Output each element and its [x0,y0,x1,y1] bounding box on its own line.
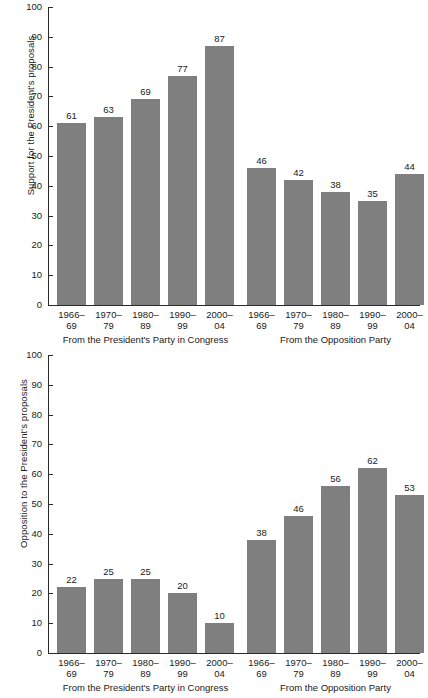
bar-value-label: 69 [125,87,166,97]
y-tick-mark [48,444,53,445]
bar-value-label: 53 [389,483,428,493]
y-tick-labels-support: 0102030405060708090100 [16,0,42,348]
y-tick-label: 30 [16,559,42,569]
x-tick-label-line: 2000– [197,658,242,669]
x-tick-label: 2000–04 [387,310,428,331]
bar [131,99,160,305]
bar [94,579,123,654]
bar-value-label: 38 [241,528,282,538]
y-tick-label: 0 [16,300,42,310]
bar [205,623,234,653]
y-tick-label: 20 [16,241,42,251]
bar [57,123,86,305]
x-tick-label: 2000–04 [197,658,242,679]
y-tick-label: 40 [16,181,42,191]
y-tick-label: 60 [16,121,42,131]
bar-value-label: 44 [389,162,428,172]
y-tick-label: 10 [16,618,42,628]
x-tick-label-line: 2000– [387,310,428,321]
y-tick-label: 80 [16,62,42,72]
bar-value-label: 77 [162,64,203,74]
chart-support: Support for the President's proposals 01… [0,0,428,348]
bar [395,174,424,305]
y-tick-mark [48,504,53,505]
bar [358,468,387,653]
y-tick-mark [48,186,53,187]
y-tick-mark [48,623,53,624]
plot-area-support: 611966–69631970–79691980–89771990–998720… [48,7,420,306]
y-tick-label: 40 [16,529,42,539]
group-axis-label: From the President's Party in Congress [36,682,256,693]
chart-page: Support for the President's proposals 01… [0,0,428,698]
y-tick-mark [48,593,53,594]
bar [168,593,197,653]
bar-value-label: 25 [88,567,129,577]
bar [94,117,123,305]
bar [321,486,350,653]
x-tick-label: 2000–04 [197,310,242,331]
bar [57,587,86,653]
y-tick-mark [48,156,53,157]
group-axis-label: From the Opposition Party [226,334,428,345]
y-tick-mark [48,385,53,386]
y-tick-mark [48,474,53,475]
y-tick-label: 60 [16,469,42,479]
bar [168,76,197,305]
x-tick-label-line: 2000– [197,310,242,321]
group-axis-label: From the President's Party in Congress [36,334,256,345]
y-tick-label: 0 [16,648,42,658]
bar-value-label: 46 [278,504,319,514]
y-tick-label: 50 [16,499,42,509]
x-tick-label: 2000–04 [387,658,428,679]
bar [321,192,350,305]
y-tick-label: 90 [16,380,42,390]
y-tick-label: 70 [16,440,42,450]
bar [131,579,160,654]
x-axis-line [48,653,420,654]
y-tick-label: 90 [16,32,42,42]
y-tick-labels-opposition: 0102030405060708090100 [16,348,42,698]
bar-value-label: 20 [162,581,203,591]
y-tick-mark [48,37,53,38]
y-tick-mark [48,564,53,565]
y-tick-mark [48,96,53,97]
group-axis-label: From the Opposition Party [226,682,428,693]
bar-value-label: 38 [315,180,356,190]
y-tick-label: 100 [16,350,42,360]
bar-value-label: 25 [125,567,166,577]
y-tick-label: 20 [16,589,42,599]
bar-value-label: 10 [199,611,240,621]
x-tick-label-line: 04 [387,321,428,332]
bar-value-label: 35 [352,189,393,199]
bar-value-label: 87 [199,34,240,44]
bar [247,540,276,653]
chart-opposition: Opposition to the President's proposals … [0,348,428,698]
x-tick-label-line: 04 [387,669,428,680]
bar-value-label: 62 [352,456,393,466]
bar-value-label: 46 [241,156,282,166]
y-tick-mark [48,534,53,535]
y-tick-label: 30 [16,211,42,221]
bar [358,201,387,305]
y-tick-label: 80 [16,410,42,420]
bar-value-label: 22 [51,575,92,585]
bar-value-label: 61 [51,111,92,121]
y-axis-top-cap [48,355,53,356]
bar [395,495,424,653]
y-tick-label: 70 [16,92,42,102]
y-tick-mark [48,67,53,68]
bar-value-label: 56 [315,474,356,484]
y-tick-mark [48,216,53,217]
bar [284,180,313,305]
x-tick-label-line: 04 [197,669,242,680]
bar-value-label: 63 [88,105,129,115]
y-tick-label: 10 [16,270,42,280]
x-axis-line [48,305,420,306]
bar [284,516,313,653]
y-tick-mark [48,245,53,246]
y-tick-label: 100 [16,2,42,12]
y-tick-label: 50 [16,151,42,161]
x-tick-label-line: 2000– [387,658,428,669]
y-tick-mark [48,126,53,127]
y-tick-mark [48,415,53,416]
